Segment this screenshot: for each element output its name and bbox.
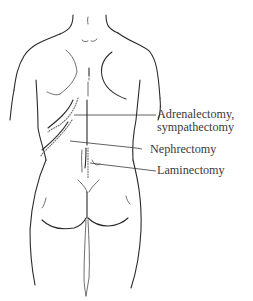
right-scapula-contour [101,52,126,99]
left-shoulder-contour [14,34,60,90]
spine-mid [88,78,89,96]
nephrectomy-label: Nephrectomy [150,143,216,156]
left-scapula-base [47,92,60,95]
laminectomy-leader [90,163,156,171]
back-incision-diagram: Adrenalectomy, sympathectomy Nephrectomy… [0,0,253,301]
thigh-inner-right [86,220,89,296]
nephrectomy-label-text: Nephrectomy [150,143,216,156]
gluteal-top-left [78,180,87,192]
laminectomy-label-text: Laminectomy [157,164,225,177]
nephrectomy-leader [70,141,142,149]
right-hip-dimple [126,196,130,204]
neck-left-contour [60,15,73,34]
left-buttock-fold [42,218,86,229]
left-scapula-contour [60,50,77,94]
nape-mark-right [91,39,97,41]
nephrectomy-incision [41,120,72,156]
adrenalectomy-label-line2: sympathectomy [157,121,234,134]
right-hip-contour [131,160,141,288]
left-rib-curve-lower [42,122,68,150]
neck-right-contour [106,15,118,33]
right-buttock-fold [88,218,128,226]
nape-mark-left [82,40,88,42]
thigh-inner-left [84,220,86,296]
gluteal-top-right [89,180,99,192]
left-hip-contour [30,160,46,285]
left-hip-dimple [42,198,46,208]
left-arm-contour [10,90,14,120]
spine-lower [85,100,87,168]
adrenalectomy-sympathectomy-label: Adrenalectomy, sympathectomy [157,108,234,134]
laminectomy-label: Laminectomy [157,164,225,177]
